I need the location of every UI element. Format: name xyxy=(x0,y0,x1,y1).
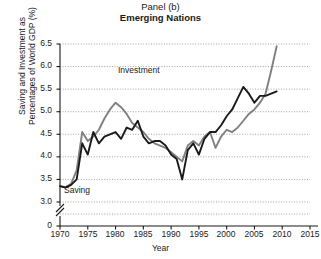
plot-area xyxy=(0,0,321,259)
series-line-investment xyxy=(60,46,277,187)
gridlines xyxy=(60,44,310,214)
chart-figure: Panel (b) Emerging Nations Saving and In… xyxy=(0,0,321,259)
axis-lines xyxy=(60,44,318,226)
series-line-saving xyxy=(60,87,277,188)
